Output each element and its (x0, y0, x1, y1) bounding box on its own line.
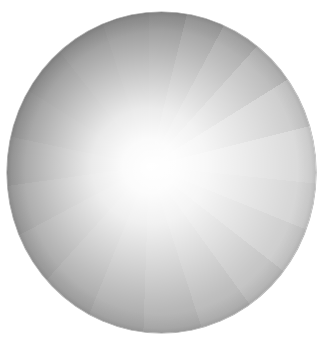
disc-rim-shading (7, 12, 316, 333)
radial-gradient-disc (7, 12, 316, 333)
